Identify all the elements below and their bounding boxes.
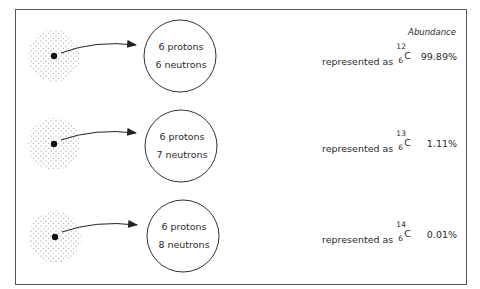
- abundance-value: 99.89%: [397, 51, 457, 62]
- neutrons-label: 8 neutrons: [144, 236, 224, 254]
- neutrons-label: 6 neutrons: [141, 56, 221, 74]
- abundance-value: 0.01%: [397, 229, 457, 240]
- atom-carbon-13: [28, 118, 80, 170]
- abundance-value: 1.11%: [397, 138, 457, 149]
- protons-label: 6 protons: [142, 128, 222, 146]
- neutrons-label: 7 neutrons: [142, 146, 222, 164]
- nucleus-composition: 6 protons 8 neutrons: [144, 218, 224, 254]
- atom-carbon-14: [29, 211, 81, 263]
- nucleus-composition: 6 protons 7 neutrons: [142, 128, 222, 164]
- protons-label: 6 protons: [144, 218, 224, 236]
- atom-carbon-12: [28, 30, 80, 82]
- abundance-header: Abundance: [380, 27, 456, 37]
- nucleus-composition: 6 protons 6 neutrons: [141, 38, 221, 74]
- protons-label: 6 protons: [141, 38, 221, 56]
